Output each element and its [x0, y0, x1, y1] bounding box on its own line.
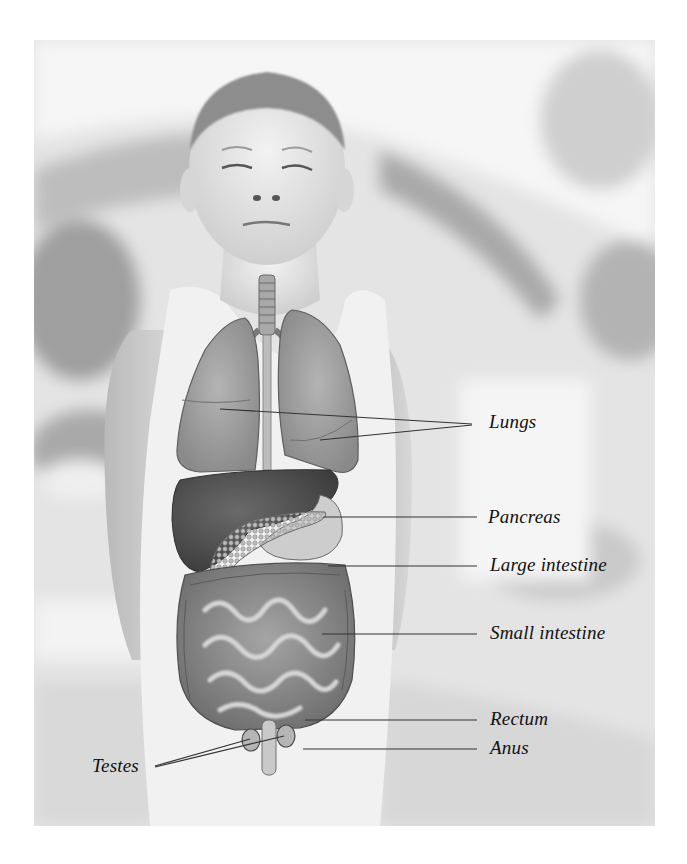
- label-pancreas: Pancreas: [488, 507, 561, 526]
- label-small-intestine: Small intestine: [490, 623, 605, 642]
- label-rectum: Rectum: [490, 709, 548, 728]
- label-testes: Testes: [92, 756, 139, 775]
- anatomy-figure: Lungs Pancreas Large intestine Small int…: [0, 0, 687, 864]
- label-lungs: Lungs: [489, 412, 536, 431]
- label-anus: Anus: [490, 738, 529, 757]
- label-large-intestine: Large intestine: [490, 555, 607, 574]
- boy-photograph: [34, 40, 655, 826]
